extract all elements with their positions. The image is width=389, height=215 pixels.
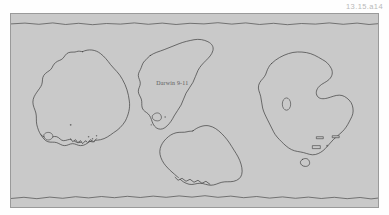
east-landmass-coastline	[258, 52, 353, 155]
north-central-landmass-inland-feature	[152, 113, 161, 121]
west-landmass-islet-1	[88, 136, 90, 138]
east-landmass-interior-mark-2	[332, 136, 339, 138]
west-landmass-islet-3	[96, 135, 97, 136]
east-landmass-inland-lake	[282, 98, 290, 110]
north-central-landmass-marker	[164, 116, 166, 118]
north-central-landmass-islet	[151, 124, 152, 125]
figure-reference-label: 13.15.a14	[346, 2, 383, 11]
east-landmass-interior-mark-1	[316, 137, 323, 139]
handwritten-annotation: Darwin 9-11	[156, 80, 188, 86]
east-landmass-southern-inlet	[300, 158, 309, 166]
west-landmass-islet-2	[92, 138, 93, 139]
west-landmass-coastline	[33, 50, 130, 146]
northern-graticule-line	[11, 23, 378, 25]
west-landmass-marker	[70, 124, 72, 126]
east-landmass-interior-mark-3	[312, 146, 320, 149]
east-landmass-marker	[326, 145, 328, 147]
west-landmass-bay	[44, 132, 53, 140]
south-central-landmass-coastline	[160, 126, 242, 186]
southern-graticule-line	[11, 196, 378, 199]
figure-root: 13.15.a14 Darwin 9-11	[0, 0, 389, 215]
map-panel: Darwin 9-11	[10, 13, 379, 208]
world-map-illustration: Darwin 9-11	[11, 14, 378, 207]
